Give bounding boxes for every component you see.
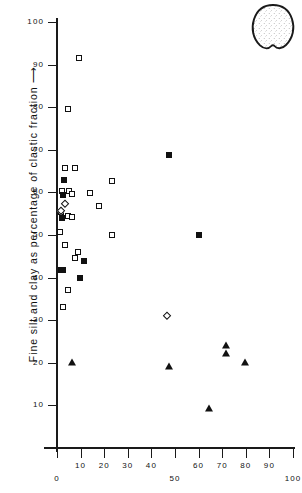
y-axis-tick-label: 100 xyxy=(18,17,44,26)
y-axis-tick xyxy=(48,363,57,364)
data-point-open-square xyxy=(60,304,66,310)
x-axis-tick-label: 90 xyxy=(256,461,282,470)
y-axis-tick xyxy=(48,150,57,151)
x-axis-tick xyxy=(128,449,129,458)
data-point-filled-triangle xyxy=(222,350,230,357)
data-point-open-diamond xyxy=(163,311,172,320)
y-axis-tick xyxy=(48,320,57,321)
x-axis-tick xyxy=(222,449,223,458)
x-axis-tick-label: 20 xyxy=(91,461,117,470)
y-axis-tick-label: 70 xyxy=(18,145,44,154)
y-axis-tick-label: 40 xyxy=(18,273,44,282)
data-point-filled-square xyxy=(77,275,83,281)
y-axis-tick xyxy=(48,235,57,236)
y-axis-tick-label: 50 xyxy=(18,230,44,239)
x-axis-tick-label: 30 xyxy=(115,461,141,470)
data-point-filled-square xyxy=(166,152,172,158)
data-point-filled-square xyxy=(81,258,87,264)
data-point-open-square xyxy=(109,232,115,238)
x-axis-line xyxy=(44,447,295,449)
x-axis-tick-label: 0 xyxy=(44,474,70,483)
x-axis-tick-label: 40 xyxy=(138,461,164,470)
data-point-open-square xyxy=(76,55,82,61)
x-axis-tick-label: 80 xyxy=(233,461,259,470)
y-axis-tick xyxy=(48,405,57,406)
data-point-open-square xyxy=(69,214,75,220)
x-axis-tick xyxy=(81,449,82,458)
x-axis-tick xyxy=(175,449,176,458)
data-point-open-square xyxy=(65,287,71,293)
data-point-open-square xyxy=(62,242,68,248)
y-axis-title: Fine silt and clay as percentage of clas… xyxy=(27,24,39,404)
y-axis-tick xyxy=(48,107,57,108)
data-point-filled-triangle xyxy=(165,363,173,370)
y-axis-tick-label: 90 xyxy=(18,60,44,69)
y-axis-tick-label: 30 xyxy=(18,315,44,324)
y-axis-tick-label: 80 xyxy=(18,102,44,111)
data-point-filled-square xyxy=(59,215,65,221)
figure-root: Fine silt and clay as percentage of clas… xyxy=(0,0,302,493)
y-axis-tick xyxy=(48,22,57,23)
data-point-filled-triangle xyxy=(222,341,230,348)
data-point-filled-triangle xyxy=(68,358,76,365)
data-point-open-square xyxy=(57,229,63,235)
x-axis-tick xyxy=(246,449,247,458)
y-axis-tick-label: 60 xyxy=(18,187,44,196)
x-axis-tick-label: 50 xyxy=(162,474,188,483)
y-axis-tick-label: 10 xyxy=(18,400,44,409)
data-point-open-square xyxy=(62,165,68,171)
data-point-filled-square xyxy=(196,232,202,238)
x-axis-tick xyxy=(293,449,294,458)
x-axis-tick-label: 60 xyxy=(186,461,212,470)
data-point-filled-triangle xyxy=(205,405,213,412)
y-axis-tick xyxy=(48,278,57,279)
data-point-filled-square xyxy=(60,267,66,273)
clast-outline-icon xyxy=(248,2,298,56)
x-axis-tick xyxy=(57,449,58,458)
data-point-open-square xyxy=(69,191,75,197)
x-axis-tick xyxy=(269,449,270,458)
data-point-open-square xyxy=(72,165,78,171)
data-point-open-square xyxy=(96,203,102,209)
data-point-filled-square xyxy=(60,192,66,198)
data-point-open-square xyxy=(87,190,93,196)
x-axis-tick xyxy=(151,449,152,458)
data-point-open-square xyxy=(109,178,115,184)
x-axis-tick-label: 100 xyxy=(280,474,302,483)
data-point-open-square xyxy=(72,255,78,261)
x-axis-tick-label: 70 xyxy=(209,461,235,470)
x-axis-tick xyxy=(199,449,200,458)
x-axis-tick-label: 10 xyxy=(68,461,94,470)
data-point-filled-square xyxy=(61,177,67,183)
y-axis-tick xyxy=(48,192,57,193)
y-axis-tick-label: 20 xyxy=(18,358,44,367)
data-point-open-square xyxy=(65,106,71,112)
data-point-filled-triangle xyxy=(241,358,249,365)
y-axis-tick xyxy=(48,65,57,66)
x-axis-tick xyxy=(104,449,105,458)
